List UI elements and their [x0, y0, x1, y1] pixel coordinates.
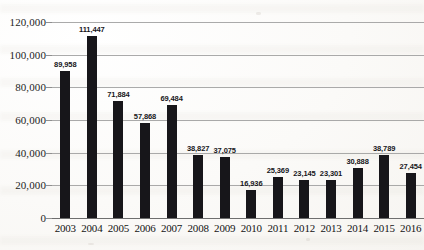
bar-chart: 020,00040,00060,00080,000100,000120,000 … — [0, 0, 424, 250]
bar[interactable] — [299, 180, 309, 218]
bar[interactable] — [326, 180, 336, 218]
gridline — [52, 120, 424, 121]
y-axis-tick — [46, 185, 52, 186]
bar[interactable] — [60, 71, 70, 218]
x-axis-labels: 2003200420052006200720082009201020112012… — [52, 220, 424, 240]
gridline — [52, 22, 424, 23]
x-axis-tick-label: 2016 — [400, 222, 421, 234]
y-axis-tick-label: 100,000 — [10, 49, 46, 61]
x-axis-tick-label: 2003 — [55, 222, 76, 234]
gridline — [52, 55, 424, 56]
y-axis-labels: 020,00040,00060,00080,000100,000120,000 — [0, 0, 46, 250]
x-axis-tick-label: 2012 — [294, 222, 315, 234]
bar[interactable] — [193, 155, 203, 218]
gridline — [52, 153, 424, 154]
bar[interactable] — [87, 36, 97, 218]
y-axis-tick — [46, 218, 52, 219]
bar-value-label: 37,075 — [214, 146, 236, 155]
bar-value-label: 111,447 — [79, 25, 105, 34]
x-axis-tick-label: 2009 — [214, 222, 235, 234]
scanned-page: 020,00040,00060,00080,000100,000120,000 … — [0, 0, 424, 250]
x-axis-tick-label: 2010 — [241, 222, 262, 234]
x-axis-tick-label: 2014 — [347, 222, 368, 234]
bar-value-label: 16,936 — [240, 179, 262, 188]
bar-value-label: 69,484 — [160, 94, 182, 103]
gridline — [52, 87, 424, 88]
bar[interactable] — [220, 157, 230, 218]
y-axis-tick-label: 60,000 — [15, 114, 46, 126]
bar-value-label: 23,301 — [320, 169, 342, 178]
bar[interactable] — [406, 173, 416, 218]
x-axis-tick-label: 2008 — [188, 222, 209, 234]
axis-baseline — [52, 218, 424, 219]
x-axis-tick-label: 2011 — [267, 222, 288, 234]
bar[interactable] — [379, 155, 389, 218]
x-axis-tick-label: 2007 — [161, 222, 182, 234]
y-axis-tick — [46, 22, 52, 23]
bar[interactable] — [113, 101, 123, 218]
y-axis-tick-label: 20,000 — [15, 179, 46, 191]
y-axis-tick — [46, 55, 52, 56]
gridline — [52, 185, 424, 186]
y-axis-tick — [46, 153, 52, 154]
x-axis-tick-label: 2005 — [108, 222, 129, 234]
bar-value-label: 89,958 — [54, 60, 76, 69]
y-axis-tick-label: 120,000 — [10, 16, 46, 28]
x-axis-tick-label: 2013 — [320, 222, 341, 234]
y-axis-tick-label: 40,000 — [15, 147, 46, 159]
bar[interactable] — [140, 123, 150, 218]
bar[interactable] — [273, 177, 283, 218]
bar[interactable] — [167, 105, 177, 218]
bar-value-label: 25,369 — [267, 166, 289, 175]
bar-value-label: 30,888 — [346, 157, 368, 166]
bar-value-label: 57,868 — [134, 112, 156, 121]
y-axis-tick — [46, 87, 52, 88]
bar-value-label: 38,789 — [373, 144, 395, 153]
bar-value-label: 38,827 — [187, 144, 209, 153]
x-axis-tick-label: 2006 — [134, 222, 155, 234]
bar-value-label: 23,145 — [293, 169, 315, 178]
bar[interactable] — [246, 190, 256, 218]
y-axis-tick-label: 80,000 — [15, 81, 46, 93]
bar[interactable] — [353, 168, 363, 218]
x-axis-tick-label: 2015 — [374, 222, 395, 234]
y-axis-tick — [46, 120, 52, 121]
x-axis-tick-label: 2004 — [81, 222, 102, 234]
bar-value-label: 71,884 — [107, 90, 129, 99]
plot-area: 89,958111,44771,88457,86869,48438,82737,… — [52, 22, 424, 218]
bar-value-label: 27,454 — [400, 162, 422, 171]
